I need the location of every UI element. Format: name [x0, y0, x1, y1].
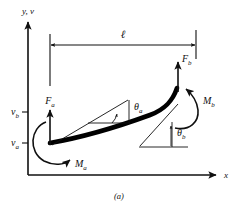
tick-label-va: va: [11, 137, 19, 151]
force-b-label: Fb: [181, 53, 192, 67]
theta-b-group: θb: [139, 104, 188, 147]
tick-label-vb: vb: [11, 106, 19, 120]
moment-b-arrow: [175, 89, 198, 129]
theta-a-angle-arc: [112, 114, 117, 123]
force-b-group: Fb: [178, 53, 192, 92]
theta-a-label: θa: [134, 101, 143, 115]
dimension-label-length: ℓ: [121, 28, 126, 40]
moment-b-group: Mb: [175, 89, 215, 129]
y-axis-label: y, v: [21, 6, 34, 16]
figure-caption: (a): [114, 191, 124, 201]
diagram-canvas: y, v x vb va ℓ: [0, 0, 238, 207]
force-a-label: Fa: [44, 95, 55, 109]
tangent-line-a: [52, 100, 128, 145]
length-dimension: ℓ: [50, 28, 196, 86]
x-axis-label: x: [223, 170, 228, 180]
force-a-group: Fa: [44, 95, 55, 145]
beam-diagram-figure: y, v x vb va ℓ: [0, 0, 238, 207]
moment-b-label: Mb: [202, 95, 215, 109]
moment-a-label: Ma: [74, 158, 87, 172]
y-axis-ticks: vb va: [11, 106, 28, 151]
